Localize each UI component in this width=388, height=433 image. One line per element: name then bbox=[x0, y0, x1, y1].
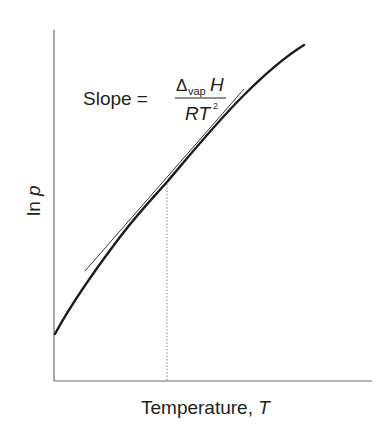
y-axis-label-var: p bbox=[23, 185, 44, 197]
vap-subscript: vap bbox=[188, 85, 206, 97]
x-axis-label: Temperature, T bbox=[141, 397, 271, 418]
x-axis-label-var: T bbox=[258, 397, 271, 418]
enthalpy-var: H bbox=[210, 74, 224, 95]
squared-superscript: 2 bbox=[213, 101, 218, 111]
y-axis-label: ln p bbox=[23, 185, 44, 216]
slope-annotation: Slope = Δ vap H RT 2 bbox=[83, 74, 226, 124]
rt-var: RT bbox=[185, 103, 211, 124]
tangent-line bbox=[85, 89, 244, 271]
vapour-pressure-diagram: Slope = Δ vap H RT 2 Temperature, T ln p bbox=[0, 0, 388, 433]
slope-prefix: Slope = bbox=[83, 88, 148, 109]
y-axis-label-main: ln bbox=[23, 196, 44, 216]
delta-symbol: Δ bbox=[176, 76, 187, 95]
x-axis-label-main: Temperature, bbox=[141, 397, 258, 418]
